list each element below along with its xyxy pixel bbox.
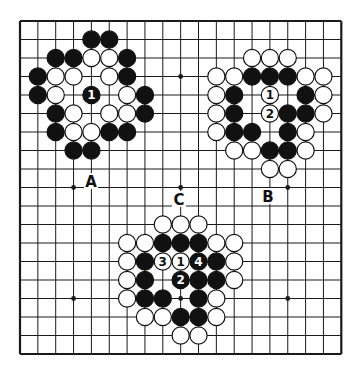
white-stone xyxy=(226,142,243,159)
star-point xyxy=(285,296,290,301)
white-stone xyxy=(83,49,100,66)
white-stone xyxy=(190,216,207,233)
move-number: 1 xyxy=(176,255,184,269)
move-number: 2 xyxy=(176,273,184,287)
white-stone xyxy=(208,234,225,251)
black-stone xyxy=(226,105,243,122)
black-stone xyxy=(83,31,100,48)
white-stone xyxy=(83,123,100,140)
black-stone xyxy=(154,290,171,307)
white-stone xyxy=(297,123,314,140)
black-stone xyxy=(29,86,46,103)
white-stone xyxy=(226,68,243,85)
black-stone xyxy=(190,308,207,325)
white-stone xyxy=(119,234,136,251)
white-stone xyxy=(315,105,332,122)
black-stone xyxy=(261,68,278,85)
black-stone xyxy=(65,142,82,159)
white-stone xyxy=(136,308,153,325)
white-stone xyxy=(101,68,118,85)
white-stone xyxy=(119,253,136,270)
black-stone xyxy=(136,253,153,270)
white-stone xyxy=(297,142,314,159)
black-stone xyxy=(172,308,189,325)
white-stone xyxy=(154,216,171,233)
white-stone xyxy=(136,234,153,251)
white-stone xyxy=(243,142,260,159)
white-stone xyxy=(190,327,207,344)
black-stone xyxy=(190,271,207,288)
black-stone xyxy=(261,142,278,159)
move-number: 2 xyxy=(266,107,274,121)
white-stone xyxy=(208,105,225,122)
black-stone xyxy=(226,86,243,103)
position-label-b: B xyxy=(262,188,273,206)
position-label-a: A xyxy=(85,173,97,191)
black-stone xyxy=(279,123,296,140)
black-stone xyxy=(47,49,64,66)
white-stone xyxy=(119,290,136,307)
white-stone xyxy=(208,308,225,325)
black-stone xyxy=(119,49,136,66)
white-stone xyxy=(261,49,278,66)
white-stone xyxy=(315,86,332,103)
black-stone xyxy=(279,105,296,122)
white-stone xyxy=(119,105,136,122)
black-stone xyxy=(136,290,153,307)
white-stone xyxy=(154,308,171,325)
white-stone xyxy=(279,49,296,66)
white-stone xyxy=(65,105,82,122)
black-stone xyxy=(208,271,225,288)
black-stone xyxy=(279,142,296,159)
star-point xyxy=(178,296,183,301)
white-stone xyxy=(279,160,296,177)
white-stone xyxy=(47,86,64,103)
star-point xyxy=(178,185,183,190)
black-stone xyxy=(154,234,171,251)
white-stone xyxy=(172,327,189,344)
move-number: 1 xyxy=(266,88,274,102)
white-stone xyxy=(65,68,82,85)
star-point xyxy=(71,296,76,301)
white-stone xyxy=(226,271,243,288)
white-stone xyxy=(226,234,243,251)
black-stone xyxy=(47,105,64,122)
move-number: 3 xyxy=(159,255,167,269)
white-stone xyxy=(65,123,82,140)
move-number: 1 xyxy=(87,88,95,102)
black-stone xyxy=(279,68,296,85)
white-stone xyxy=(172,216,189,233)
black-stone xyxy=(101,123,118,140)
white-stone xyxy=(119,271,136,288)
black-stone xyxy=(297,86,314,103)
black-stone xyxy=(65,49,82,66)
black-stone xyxy=(136,105,153,122)
move-number: 4 xyxy=(194,255,202,269)
star-point xyxy=(285,185,290,190)
white-stone xyxy=(101,105,118,122)
black-stone xyxy=(136,86,153,103)
white-stone xyxy=(226,253,243,270)
black-stone xyxy=(208,253,225,270)
black-stone xyxy=(190,290,207,307)
black-stone xyxy=(243,123,260,140)
black-stone xyxy=(119,68,136,85)
star-point xyxy=(71,185,76,190)
black-stone xyxy=(172,234,189,251)
white-stone xyxy=(47,68,64,85)
white-stone xyxy=(208,68,225,85)
white-stone xyxy=(208,123,225,140)
white-stone xyxy=(315,68,332,85)
white-stone xyxy=(261,160,278,177)
go-board-diagram: ABC 1123142 xyxy=(0,0,363,374)
black-stone xyxy=(47,123,64,140)
white-stone xyxy=(243,49,260,66)
star-point xyxy=(178,74,183,79)
white-stone xyxy=(208,290,225,307)
white-stone xyxy=(297,68,314,85)
black-stone xyxy=(243,68,260,85)
position-label-c: C xyxy=(173,191,184,209)
black-stone xyxy=(29,68,46,85)
go-board: ABC 1123142 xyxy=(0,0,363,374)
black-stone xyxy=(136,271,153,288)
